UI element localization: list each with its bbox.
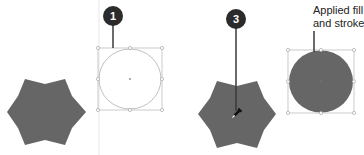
callout-applied-fill-stroke: Applied fill and stroke: [313, 4, 364, 52]
diagram-canvas: 1 3 Applied fill and stroke: [0, 0, 364, 155]
right-circle-selection[interactable]: [286, 48, 355, 114]
left-star-shape[interactable]: [7, 79, 86, 145]
callout-step-1: 1: [103, 6, 123, 48]
center-point: [320, 81, 322, 83]
callout-label-line2: and stroke: [313, 17, 364, 29]
callout-label-line1: Applied fill: [313, 4, 363, 16]
step-number: 3: [233, 13, 239, 25]
center-point: [129, 78, 131, 80]
step-number: 1: [110, 10, 116, 22]
left-circle-selection[interactable]: [96, 46, 163, 111]
